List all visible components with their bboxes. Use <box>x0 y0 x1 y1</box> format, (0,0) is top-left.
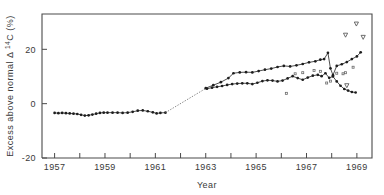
data-point <box>257 70 260 73</box>
data-point <box>95 112 98 115</box>
plot-frame <box>42 14 372 158</box>
data-point <box>329 67 332 70</box>
data-point <box>146 110 149 113</box>
data-point <box>291 75 294 78</box>
data-point <box>351 58 354 61</box>
data-point <box>301 63 304 66</box>
y-axis-ticks: 200-20 <box>22 45 47 164</box>
data-point <box>99 112 102 115</box>
data-point <box>354 91 357 94</box>
data-point <box>266 79 269 82</box>
data-point <box>220 81 223 84</box>
data-point <box>251 83 254 86</box>
marker-open-triangle-down <box>354 22 358 26</box>
data-point <box>76 113 79 116</box>
data-point <box>159 112 162 115</box>
data-point <box>327 52 330 55</box>
data-point <box>116 111 119 114</box>
marker-small-open-square <box>336 72 338 74</box>
data-point <box>72 112 75 115</box>
data-point <box>221 85 224 88</box>
data-point <box>53 112 56 115</box>
data-point <box>151 111 154 114</box>
marker-small-open-square <box>345 72 347 74</box>
data-point <box>83 114 86 117</box>
marker-small-open-square <box>313 70 315 72</box>
data-point <box>282 65 285 68</box>
marker-open-triangle-down <box>361 35 365 39</box>
data-point <box>323 58 326 61</box>
x-tick-label: 1957 <box>44 162 66 172</box>
y-axis-title-group: Excess above normal Δ 14C (%) <box>4 15 15 156</box>
data-point <box>212 84 215 87</box>
x-axis-ticks: 1957195919611963196519671969 <box>44 153 368 172</box>
x-tick-label: 1969 <box>346 162 368 172</box>
marker-open-triangle-down <box>345 84 349 88</box>
series-path-interpolated-gap <box>165 88 205 112</box>
data-point <box>359 51 362 54</box>
data-point <box>57 112 60 115</box>
data-point <box>301 78 304 81</box>
data-point <box>345 61 348 64</box>
data-point <box>286 77 289 80</box>
data-point <box>227 77 230 80</box>
data-point <box>332 74 335 77</box>
data-point <box>131 110 134 113</box>
marker-small-open-square <box>294 73 296 75</box>
x-tick-label: 1967 <box>296 162 318 172</box>
data-point <box>87 114 90 117</box>
data-point <box>216 85 219 88</box>
data-point <box>339 84 342 87</box>
data-point <box>311 74 314 77</box>
marker-small-open-square <box>302 72 304 74</box>
data-point <box>80 113 83 116</box>
x-axis-title: Year <box>197 180 217 190</box>
data-point <box>91 113 94 116</box>
data-point <box>289 65 292 68</box>
data-point <box>251 71 254 74</box>
data-point <box>351 91 354 94</box>
marker-small-open-square <box>342 73 344 75</box>
data-point <box>256 81 259 84</box>
data-point <box>340 63 343 66</box>
data-point <box>306 76 309 79</box>
data-series-group <box>53 51 362 117</box>
data-point <box>316 74 319 77</box>
marker-small-open-square <box>329 80 331 82</box>
y-axis-title: Excess above normal Δ 14C (%) <box>4 15 15 156</box>
data-point <box>356 55 359 58</box>
y-tick-label: 20 <box>25 45 36 55</box>
data-point <box>141 109 144 112</box>
data-point <box>328 77 331 80</box>
data-point <box>314 60 317 63</box>
data-point <box>264 68 267 71</box>
data-point <box>241 82 244 85</box>
data-point <box>295 64 298 67</box>
data-point <box>106 111 109 114</box>
data-point <box>261 80 264 83</box>
chart-figure: 1957195919611963196519671969 200-20 Year… <box>0 0 384 195</box>
data-point <box>68 112 71 115</box>
data-point <box>270 67 273 70</box>
data-point <box>246 82 249 85</box>
marker-small-open-square <box>285 92 287 94</box>
data-point <box>65 112 68 115</box>
data-point <box>136 109 139 112</box>
data-point <box>335 80 338 83</box>
data-point <box>102 111 105 114</box>
marker-small-open-square <box>319 70 321 72</box>
y-tick-label: -20 <box>22 153 36 163</box>
data-point <box>347 89 350 92</box>
data-point <box>281 79 284 82</box>
data-point <box>236 82 239 85</box>
data-point <box>335 65 338 68</box>
data-point <box>324 72 327 75</box>
x-tick-label: 1965 <box>245 162 267 172</box>
data-point <box>276 80 279 83</box>
data-point <box>296 77 299 80</box>
data-point <box>343 88 346 91</box>
marker-small-open-square <box>326 82 328 84</box>
x-tick-label: 1963 <box>195 162 217 172</box>
data-point <box>126 111 129 114</box>
y-tick-label: 0 <box>31 99 36 109</box>
